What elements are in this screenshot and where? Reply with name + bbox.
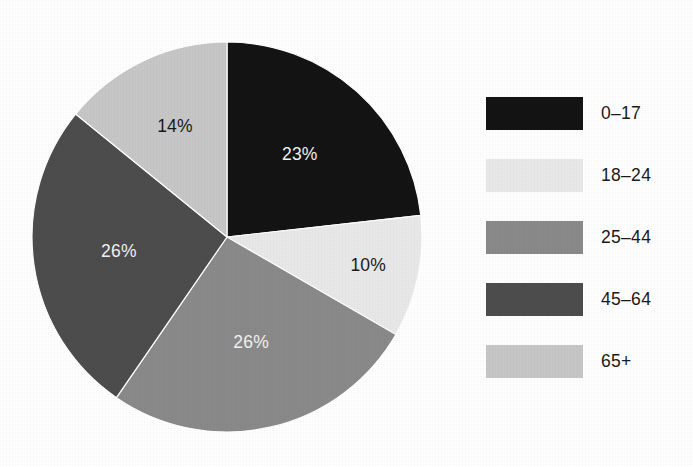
pie-svg: 23%10%26%26%14% (0, 0, 460, 467)
legend-swatch (486, 97, 583, 130)
legend-item-label: 45–64 (601, 289, 651, 310)
pie-chart-figure: 23%10%26%26%14% 0–1718–2425–4445–6465+ (0, 0, 693, 467)
pie-slice-value-label: 23% (282, 144, 318, 164)
legend-item[interactable]: 0–17 (486, 96, 641, 130)
legend-item-label: 18–24 (601, 165, 651, 186)
legend-item[interactable]: 25–44 (486, 220, 651, 254)
legend-item[interactable]: 18–24 (486, 158, 651, 192)
legend-item[interactable]: 65+ (486, 344, 632, 378)
legend-swatch (486, 345, 583, 378)
pie-slice-value-label: 14% (157, 116, 193, 136)
legend-item-label: 0–17 (601, 103, 641, 124)
legend-swatch (486, 283, 583, 316)
pie-slice[interactable] (227, 42, 421, 237)
pie-slice-value-label: 10% (350, 255, 386, 275)
legend-swatch (486, 221, 583, 254)
legend-swatch (486, 159, 583, 192)
legend: 0–1718–2425–4445–6465+ (486, 96, 686, 381)
pie-plot-area: 23%10%26%26%14% (0, 0, 460, 467)
pie-slice-value-label: 26% (101, 241, 137, 261)
pie-slices-group (32, 42, 422, 432)
legend-item-label: 25–44 (601, 227, 651, 248)
legend-item[interactable]: 45–64 (486, 282, 651, 316)
pie-slice-value-label: 26% (233, 332, 269, 352)
legend-item-label: 65+ (601, 351, 632, 372)
